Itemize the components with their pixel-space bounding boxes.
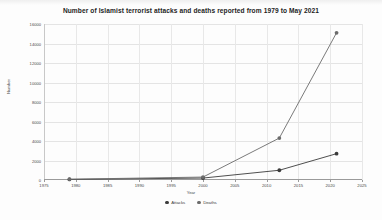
x-tick-mark — [203, 180, 204, 182]
data-point-deaths — [201, 175, 205, 179]
x-tick-label: 1995 — [167, 183, 176, 188]
chart-page: Number of Islamist terrorist attacks and… — [0, 0, 382, 220]
x-tick-mark — [76, 180, 77, 182]
legend-item-deaths[interactable]: Deaths — [197, 200, 217, 205]
legend-label: Attacks — [171, 200, 185, 205]
x-tick-mark — [235, 180, 236, 182]
x-tick-mark — [330, 180, 331, 182]
x-tick-label: 1990 — [135, 183, 144, 188]
legend-item-attacks[interactable]: Attacks — [165, 200, 185, 205]
plot-area — [44, 24, 362, 180]
y-tick-label: 2000 — [32, 158, 41, 163]
y-tick-label: 12000 — [30, 61, 41, 66]
legend-label: Deaths — [203, 200, 217, 205]
x-tick-label: 1975 — [39, 183, 48, 188]
y-tick-label: 6000 — [32, 119, 41, 124]
legend-marker-icon — [197, 201, 200, 204]
x-tick-label: 2005 — [230, 183, 239, 188]
x-axis-title: Year — [0, 190, 382, 195]
y-axis-title: Number — [6, 79, 11, 94]
x-tick-mark — [267, 180, 268, 182]
gridline-vertical — [362, 24, 363, 180]
x-tick-label: 2020 — [326, 183, 335, 188]
x-tick-label: 2025 — [357, 183, 366, 188]
y-tick-label: 14000 — [30, 41, 41, 46]
y-tick-label: 16000 — [30, 22, 41, 27]
series-plot — [44, 24, 362, 180]
y-tick-label: 10000 — [30, 80, 41, 85]
data-point-deaths — [68, 177, 72, 181]
x-tick-label: 1980 — [71, 183, 80, 188]
x-tick-label: 2015 — [294, 183, 303, 188]
chart-legend: AttacksDeaths — [0, 200, 382, 205]
x-tick-mark — [362, 180, 363, 182]
y-tick-label: 0 — [39, 178, 41, 183]
x-tick-label: 1985 — [103, 183, 112, 188]
legend-marker-icon — [165, 201, 168, 204]
data-point-deaths — [277, 136, 281, 140]
x-tick-mark — [108, 180, 109, 182]
x-tick-label: 2000 — [198, 183, 207, 188]
x-tick-label: 2010 — [262, 183, 271, 188]
x-tick-mark — [44, 180, 45, 182]
data-point-attacks — [277, 168, 281, 172]
data-point-attacks — [335, 152, 339, 156]
x-tick-mark — [298, 180, 299, 182]
x-tick-mark — [139, 180, 140, 182]
y-tick-label: 4000 — [32, 139, 41, 144]
series-line-deaths — [69, 33, 336, 179]
y-tick-label: 8000 — [32, 100, 41, 105]
data-point-deaths — [335, 31, 339, 35]
x-tick-mark — [171, 180, 172, 182]
chart-title: Number of Islamist terrorist attacks and… — [0, 7, 382, 14]
